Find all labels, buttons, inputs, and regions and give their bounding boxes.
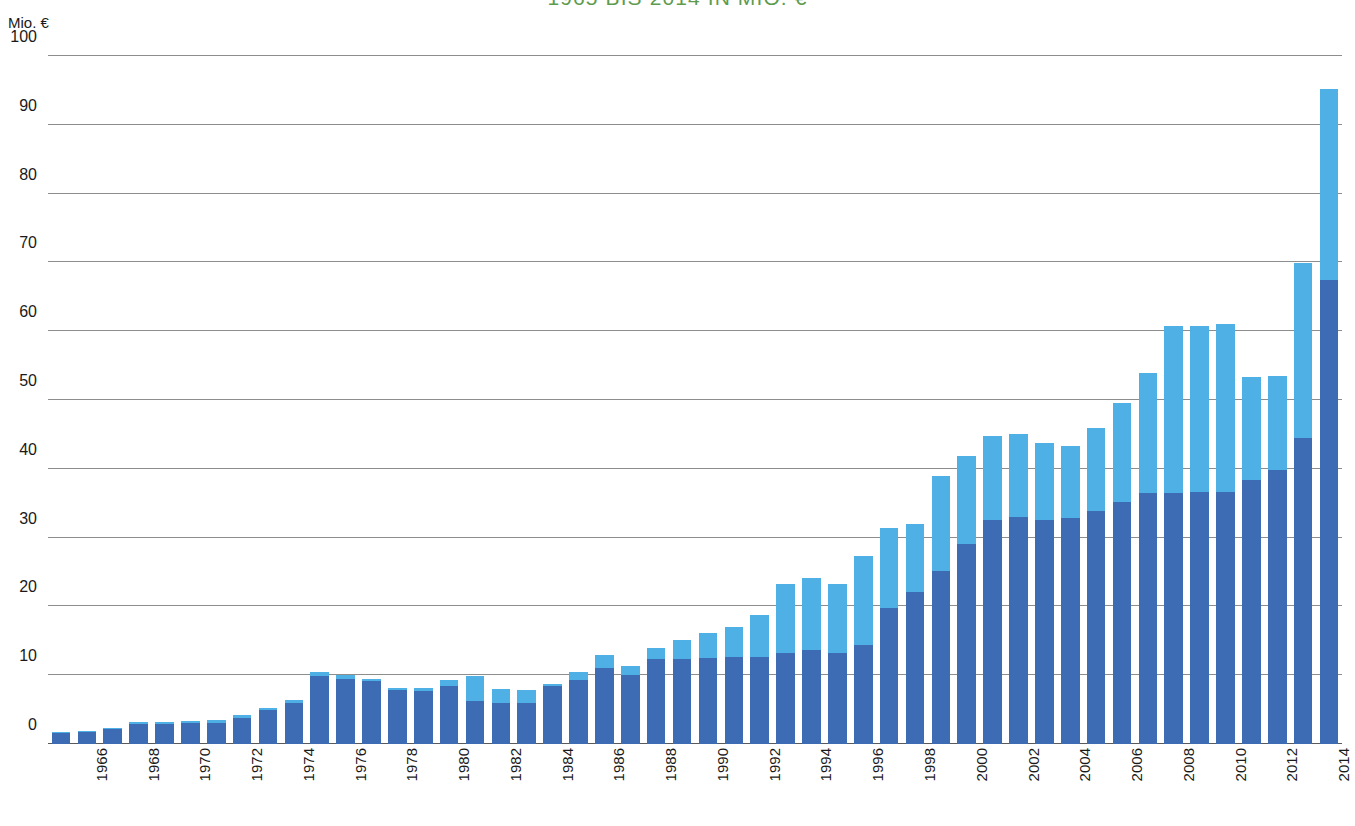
x-axis-tick-label: 1992 bbox=[766, 748, 783, 781]
bars-group bbox=[48, 56, 1342, 744]
bar-1999 bbox=[932, 476, 951, 744]
bar-1987 bbox=[621, 666, 640, 744]
bar-segment-light bbox=[517, 690, 536, 703]
bar-2010 bbox=[1216, 324, 1235, 744]
bar-1978 bbox=[388, 688, 407, 744]
bar-segment-dark bbox=[1087, 511, 1106, 744]
bar-segment-dark bbox=[207, 723, 226, 744]
bar-segment-dark bbox=[595, 668, 614, 744]
bar-segment-dark bbox=[1216, 492, 1235, 744]
x-axis-tick-label: 1994 bbox=[817, 748, 834, 781]
x-axis-tick-label: 1984 bbox=[559, 748, 576, 781]
bar-1981 bbox=[466, 676, 485, 744]
x-axis-tick-label: 1990 bbox=[714, 748, 731, 781]
bar-segment-dark bbox=[906, 592, 925, 744]
bar-2004 bbox=[1061, 446, 1080, 744]
bar-1997 bbox=[880, 528, 899, 744]
y-axis-tick-label: 60 bbox=[0, 303, 37, 321]
bar-segment-light bbox=[647, 648, 666, 659]
bar-segment-dark bbox=[52, 733, 71, 744]
bar-segment-dark bbox=[1294, 438, 1313, 744]
bar-segment-dark bbox=[647, 659, 666, 744]
bar-segment-dark bbox=[336, 679, 355, 744]
bar-segment-dark bbox=[750, 657, 769, 744]
bar-segment-light bbox=[1061, 446, 1080, 518]
bar-segment-light bbox=[1242, 377, 1261, 480]
bar-segment-light bbox=[1087, 428, 1106, 511]
bar-2005 bbox=[1087, 428, 1106, 744]
bar-segment-dark bbox=[1190, 492, 1209, 744]
bar-2008 bbox=[1164, 326, 1183, 744]
bar-1989 bbox=[673, 640, 692, 744]
x-axis-tick-label: 1980 bbox=[455, 748, 472, 781]
bar-segment-dark bbox=[440, 686, 459, 744]
bar-segment-dark bbox=[983, 520, 1002, 744]
bar-segment-light bbox=[673, 640, 692, 659]
bar-segment-light bbox=[1035, 443, 1054, 520]
bar-segment-light bbox=[880, 528, 899, 608]
bar-segment-dark bbox=[259, 710, 278, 744]
bar-segment-dark bbox=[492, 703, 511, 744]
bar-segment-dark bbox=[802, 650, 821, 744]
y-axis-tick-label: 0 bbox=[0, 716, 37, 734]
bar-1984 bbox=[543, 684, 562, 744]
bar-segment-light bbox=[1294, 263, 1313, 438]
bar-1985 bbox=[569, 672, 588, 744]
x-axis-tick-label: 1966 bbox=[93, 748, 110, 781]
chart-container: 1965 BIS 2014 IN MIO. € Mio. € 010203040… bbox=[0, 0, 1355, 826]
bar-1966 bbox=[78, 731, 97, 744]
bar-1977 bbox=[362, 679, 381, 744]
x-axis-tick-label: 1970 bbox=[196, 748, 213, 781]
y-axis-tick-label: 30 bbox=[0, 510, 37, 528]
y-axis-tick-label: 40 bbox=[0, 441, 37, 459]
bar-segment-dark bbox=[233, 718, 252, 744]
bar-1967 bbox=[103, 728, 122, 745]
y-axis-tick-label: 70 bbox=[0, 234, 37, 252]
bar-1994 bbox=[802, 578, 821, 744]
bar-1970 bbox=[181, 721, 200, 744]
bar-segment-dark bbox=[129, 724, 148, 744]
bar-segment-light bbox=[492, 689, 511, 703]
bar-1975 bbox=[310, 672, 329, 744]
bar-1973 bbox=[259, 708, 278, 744]
x-axis-tick-label: 1968 bbox=[145, 748, 162, 781]
bar-segment-dark bbox=[103, 729, 122, 744]
bar-segment-light bbox=[854, 556, 873, 645]
bar-segment-dark bbox=[932, 571, 951, 744]
bar-1980 bbox=[440, 680, 459, 744]
x-axis-tick-label: 1982 bbox=[507, 748, 524, 781]
bar-segment-light bbox=[906, 524, 925, 592]
bar-1965 bbox=[52, 732, 71, 744]
x-axis-tick-label: 2006 bbox=[1128, 748, 1145, 781]
bar-segment-dark bbox=[1113, 502, 1132, 744]
y-axis-tick-label: 80 bbox=[0, 166, 37, 184]
x-axis-tick-label: 1978 bbox=[403, 748, 420, 781]
bar-1979 bbox=[414, 688, 433, 744]
x-axis-tick-label: 1988 bbox=[662, 748, 679, 781]
bar-segment-dark bbox=[181, 723, 200, 744]
bar-segment-dark bbox=[517, 703, 536, 744]
bar-segment-dark bbox=[1242, 480, 1261, 744]
bar-segment-dark bbox=[569, 680, 588, 744]
bar-1996 bbox=[854, 556, 873, 744]
bar-segment-dark bbox=[414, 691, 433, 744]
x-axis-tick-label: 1972 bbox=[248, 748, 265, 781]
bar-segment-dark bbox=[828, 653, 847, 745]
bar-1982 bbox=[492, 689, 511, 744]
bar-1990 bbox=[699, 633, 718, 744]
bar-segment-light bbox=[1164, 326, 1183, 492]
bar-segment-light bbox=[750, 615, 769, 657]
bar-segment-light bbox=[1268, 376, 1287, 470]
x-axis-tick-label: 2008 bbox=[1180, 748, 1197, 781]
bar-segment-dark bbox=[543, 686, 562, 744]
bar-segment-dark bbox=[1061, 518, 1080, 744]
bar-segment-dark bbox=[466, 701, 485, 744]
bar-2014 bbox=[1320, 89, 1339, 744]
bar-segment-dark bbox=[155, 724, 174, 744]
x-axis-tick-label: 2012 bbox=[1283, 748, 1300, 781]
bar-2006 bbox=[1113, 403, 1132, 744]
bar-segment-dark bbox=[880, 608, 899, 744]
chart-title: 1965 BIS 2014 IN MIO. € bbox=[0, 0, 1355, 10]
bar-segment-light bbox=[983, 436, 1002, 521]
bar-segment-dark bbox=[1035, 520, 1054, 744]
